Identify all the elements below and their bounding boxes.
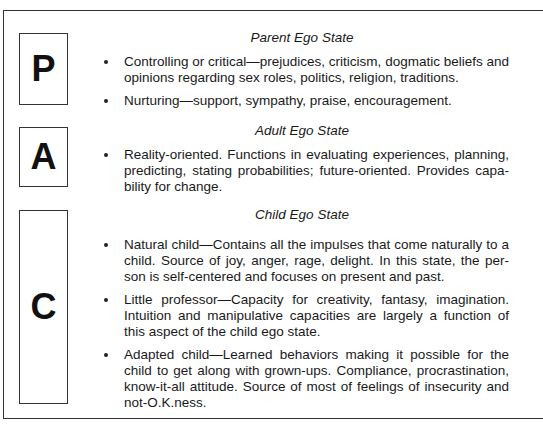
bullet-icon: [104, 153, 108, 157]
adult-letter-box: A: [19, 127, 68, 187]
bullet-text: Reality-oriented. Functions in evaluatin…: [124, 147, 509, 195]
bullet-text: Natural child—Contains all the impulses …: [124, 237, 509, 285]
bullet-text: Little professor—Capacity for creativity…: [124, 292, 509, 340]
bullet-icon: [104, 353, 108, 357]
child-letter-box: C: [19, 210, 68, 404]
bullet-text: Adapted child—Learned behaviors making i…: [124, 347, 509, 411]
bullet-text: Nurturing—support, sympathy, praise, enc…: [124, 93, 509, 109]
bullet-icon: [104, 60, 108, 64]
adult-heading: Adult Ego State: [67, 123, 537, 139]
bullet-icon: [104, 99, 108, 103]
parent-letter-box: P: [19, 33, 68, 105]
bullet-text: Controlling or critical—prejudices, crit…: [124, 54, 509, 86]
child-heading: Child Ego State: [67, 207, 537, 223]
bullet-icon: [104, 243, 108, 247]
bullet-icon: [104, 298, 108, 302]
parent-heading: Parent Ego State: [67, 30, 537, 46]
